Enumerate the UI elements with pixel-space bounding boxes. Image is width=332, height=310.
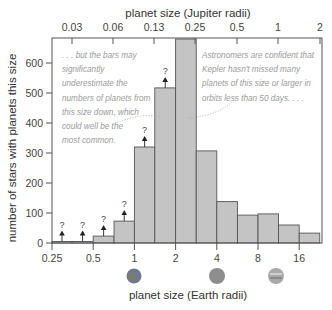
x-tick-label: 4 [214,252,220,264]
histogram-bar [134,147,154,243]
histogram-bar [176,39,197,243]
annotation-line: Astronomers are confident that [201,51,315,60]
annotation-line: underestimate the [62,79,128,88]
y-tick-label: 200 [25,177,43,189]
x-tick-label: 0.25 [42,252,63,264]
jupiter-icon-band [270,277,282,279]
histogram-bar [114,221,134,243]
bottom-axis-title: planet size (Earth radii) [129,289,247,301]
histogram-bar [93,236,114,243]
histogram-bar [258,214,279,243]
x2-tick-label: 1 [275,21,281,33]
x2-tick-label: 2 [317,21,323,33]
annotation-line: numbers of planets from [62,94,150,103]
annotation-line: could well be the [62,122,123,131]
x-tick-label: 8 [255,252,261,264]
annotation-line: orbits less than 50 days. . . . [202,94,304,103]
question-mark: ? [142,125,147,135]
y-tick-label: 600 [25,57,43,69]
x2-tick-label: 0.13 [144,21,165,33]
x2-tick-label: 0.5 [230,21,245,33]
annotation-line: Kepler hasn't missed many [202,65,301,74]
x2-tick-label: 0.06 [103,21,124,33]
annotation-right: Astronomers are confident thatKepler has… [201,51,315,103]
histogram-bar [299,233,320,243]
neptune-icon [209,268,225,284]
arrow-up-icon [162,77,168,82]
question-mark: ? [122,199,127,209]
y-tick-label: 300 [25,147,43,159]
question-mark: ? [59,220,64,230]
y-tick-label: 100 [25,207,43,219]
annotation-line: planets of this size or larger in [201,79,311,88]
question-mark: ? [163,66,168,76]
jupiter-icon [268,268,284,284]
annotation-line: significantly [62,65,105,74]
annotation-line: . . . but the bars may [62,51,138,60]
annotation-line: most common. [62,136,116,145]
top-axis-title: planet size (Jupiter radii) [125,7,250,19]
arrow-up-icon [101,225,107,230]
arrow-up-icon [142,136,148,141]
jupiter-icon-band [270,273,282,275]
arrow-up-icon [121,210,127,215]
y-tick-label: 0 [37,237,43,249]
annotation-line: this size down, which [62,108,139,117]
arrow-up-icon [59,231,65,236]
y-tick-label: 500 [25,87,43,99]
arrow-up-icon [80,231,86,236]
earth-icon-land [129,274,136,281]
annotation-left: . . . but the bars maysignificantlyunder… [62,51,150,145]
question-mark: ? [101,214,106,224]
x-tick-label: 0.5 [86,252,101,264]
histogram-chart: ??????01002003004005006000.250.51248160.… [0,0,332,310]
x-tick-label: 16 [293,252,305,264]
y-axis-title: number of stars with planets this size [6,54,18,243]
histogram-bar [196,151,217,243]
question-mark: ? [80,220,85,230]
histogram-bar [217,202,238,243]
histogram-bar [279,225,300,243]
histogram-bar [155,88,176,243]
x-tick-label: 2 [173,252,179,264]
x2-tick-label: 0.25 [185,21,206,33]
y-tick-label: 400 [25,117,43,129]
x2-tick-label: 0.03 [62,21,83,33]
histogram-bar [237,215,258,243]
x-tick-label: 1 [131,252,137,264]
